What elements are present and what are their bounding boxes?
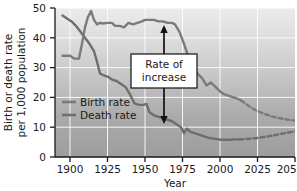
y-tick-label: 10 <box>33 121 46 133</box>
x-tick-label: 2050 <box>277 163 297 175</box>
x-tick-label: 1950 <box>132 163 159 175</box>
chart-figure: 50 40 30 20 10 0 1900 1925 1950 1975 200… <box>0 0 297 191</box>
rate-of-increase-text-line2: increase <box>142 71 186 83</box>
x-tick-label: 1925 <box>94 163 121 175</box>
x-tick-label: 1900 <box>57 163 84 175</box>
y-tick-label: 20 <box>33 91 46 103</box>
x-tick-label: 2000 <box>207 163 234 175</box>
rate-of-increase-text-line1: Rate of <box>145 58 183 70</box>
y-axis-title-line1: Birth or death rate <box>2 34 14 132</box>
y-tick-label: 0 <box>39 151 46 163</box>
x-axis-title: Year <box>163 177 187 189</box>
x-axis-ticks <box>70 157 295 162</box>
y-axis-ticks <box>50 8 55 157</box>
y-axis-title-line2: per 1,000 population <box>15 27 27 137</box>
legend-label-death-rate: Death rate <box>80 109 136 121</box>
y-tick-label: 50 <box>33 2 46 14</box>
y-tick-label: 40 <box>33 32 46 44</box>
y-tick-label: 30 <box>33 61 46 73</box>
x-tick-label: 2025 <box>244 163 271 175</box>
birth-death-rate-line-chart: 50 40 30 20 10 0 1900 1925 1950 1975 200… <box>0 0 297 191</box>
x-axis-tick-labels: 1900 1925 1950 1975 2000 2025 2050 <box>57 163 297 175</box>
y-axis-tick-labels: 50 40 30 20 10 0 <box>33 2 46 163</box>
x-tick-label: 1975 <box>169 163 196 175</box>
legend-label-birth-rate: Birth rate <box>80 96 130 108</box>
